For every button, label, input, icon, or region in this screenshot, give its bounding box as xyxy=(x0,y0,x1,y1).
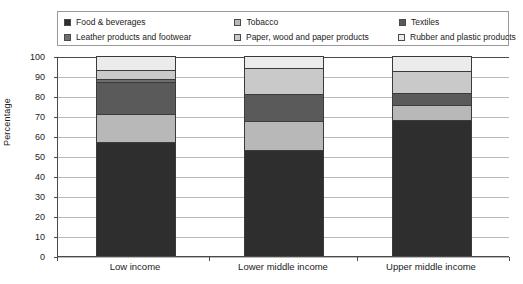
x-axis-tick xyxy=(57,257,58,261)
chart-legend: Food & beveragesTobaccoTextilesLeather p… xyxy=(57,11,509,46)
legend-row: Leather products and footwearPaper, wood… xyxy=(64,30,508,45)
bar-segment[interactable] xyxy=(392,120,472,256)
y-axis-tick-label: 100 xyxy=(30,52,45,62)
y-axis-tick-label: 20 xyxy=(35,212,45,222)
bar-segment[interactable] xyxy=(244,56,324,68)
gridline xyxy=(58,257,509,258)
x-axis-tick xyxy=(209,257,210,261)
legend-item[interactable]: Rubber and plastic products xyxy=(398,33,508,42)
legend-label: Paper, wood and paper products xyxy=(246,33,369,42)
bar-segment[interactable] xyxy=(244,94,324,121)
y-axis-tick-label: 10 xyxy=(35,232,45,242)
bar-segment[interactable] xyxy=(392,105,472,120)
legend-swatch-icon xyxy=(234,19,241,26)
stacked-bar-chart: Food & beveragesTobaccoTextilesLeather p… xyxy=(0,0,523,284)
legend-item[interactable]: Paper, wood and paper products xyxy=(234,33,398,42)
legend-label: Rubber and plastic products xyxy=(410,33,516,42)
y-axis-tick-label: 90 xyxy=(35,72,45,82)
x-axis-tick xyxy=(509,257,510,261)
legend-label: Textiles xyxy=(411,18,439,27)
bar-segment[interactable] xyxy=(96,56,176,70)
x-axis-tick-label: Low income xyxy=(110,261,161,272)
legend-label: Leather products and footwear xyxy=(76,33,191,42)
bar-segment[interactable] xyxy=(96,70,176,79)
legend-swatch-icon xyxy=(234,34,241,41)
legend-swatch-icon xyxy=(398,34,405,41)
bar-stack[interactable] xyxy=(244,56,324,256)
bar-segment[interactable] xyxy=(244,68,324,94)
legend-item[interactable]: Food & beverages xyxy=(64,18,234,27)
bar-stack[interactable] xyxy=(392,56,472,256)
x-axis-tick-label: Upper middle income xyxy=(386,261,476,272)
plot-area xyxy=(57,57,509,257)
legend-row: Food & beveragesTobaccoTextiles xyxy=(64,15,508,30)
y-axis-tick-label: 0 xyxy=(40,252,45,262)
bar-segment[interactable] xyxy=(392,93,472,105)
y-axis-tick-label: 40 xyxy=(35,172,45,182)
legend-label: Food & beverages xyxy=(76,18,145,27)
y-axis-tick-label: 80 xyxy=(35,92,45,102)
y-axis-tick-label: 50 xyxy=(35,152,45,162)
y-axis-tick-label: 30 xyxy=(35,192,45,202)
y-axis-tick-label: 70 xyxy=(35,112,45,122)
bar-segment[interactable] xyxy=(96,82,176,114)
legend-item[interactable]: Tobacco xyxy=(234,18,399,27)
bar-segment[interactable] xyxy=(96,114,176,142)
legend-swatch-icon xyxy=(64,19,71,26)
bar-stack[interactable] xyxy=(96,56,176,256)
bar-group xyxy=(58,57,509,256)
x-axis-tick xyxy=(357,257,358,261)
y-axis-tick-label: 60 xyxy=(35,132,45,142)
x-axis-tick-labels: Low incomeLower middle incomeUpper middl… xyxy=(57,261,509,277)
bar-segment[interactable] xyxy=(244,121,324,150)
bar-segment[interactable] xyxy=(96,142,176,256)
legend-item[interactable]: Leather products and footwear xyxy=(64,33,234,42)
bar-segment[interactable] xyxy=(392,56,472,71)
legend-item[interactable]: Textiles xyxy=(399,18,508,27)
legend-swatch-icon xyxy=(399,19,406,26)
x-axis-tick-label: Lower middle income xyxy=(238,261,328,272)
bar-segment[interactable] xyxy=(244,150,324,256)
y-axis-tick-labels: 0102030405060708090100 xyxy=(0,52,52,258)
legend-swatch-icon xyxy=(64,34,71,41)
legend-label: Tobacco xyxy=(246,18,278,27)
bar-segment[interactable] xyxy=(392,71,472,93)
